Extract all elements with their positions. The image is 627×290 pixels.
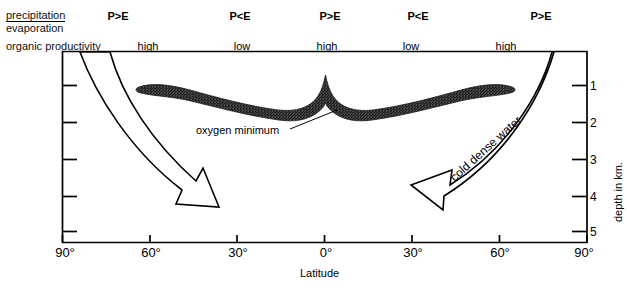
- latitude-tick-30s: 30°: [228, 245, 248, 260]
- productivity-value-60n: high: [496, 40, 517, 52]
- depth-tick-2: 2: [590, 116, 597, 130]
- pe-value-0: P>E: [319, 10, 340, 22]
- latitude-axis-title: Latitude: [300, 267, 339, 279]
- latitude-tick-90s: 90°: [55, 245, 75, 260]
- latitude-tick-60n: 60°: [490, 245, 510, 260]
- depth-tick-1: 1: [590, 79, 597, 93]
- precipitation-evaporation-ratio-label: precipitation: [6, 9, 65, 22]
- pe-value-60n: P>E: [530, 10, 551, 22]
- depth-tick-5: 5: [590, 225, 597, 239]
- latitude-tick-60s: 60°: [141, 245, 161, 260]
- northern-flow-arrow: [411, 52, 554, 210]
- right-axis-ticks: [572, 86, 586, 232]
- organic-productivity-label: organic productivity: [6, 40, 101, 52]
- oxygen-minimum-annotation: oxygen minimum: [196, 124, 279, 136]
- latitude-tick-90n: 90°: [574, 245, 594, 260]
- depth-tick-3: 3: [590, 153, 597, 167]
- pe-value-60s: P>E: [107, 10, 128, 22]
- latitude-tick-0: 0°: [320, 245, 332, 260]
- bottom-axis-ticks: [63, 235, 588, 242]
- depth-axis-title: depth in km.: [612, 162, 624, 222]
- productivity-value-60s: high: [138, 40, 159, 52]
- pe-value-30s: P<E: [229, 10, 250, 22]
- oxygen-minimum-zone: [136, 75, 515, 121]
- evaporation-label: evaporation: [6, 22, 64, 34]
- pe-value-30n: P<E: [407, 10, 428, 22]
- productivity-value-30s: low: [234, 40, 251, 52]
- depth-tick-4: 4: [590, 190, 597, 204]
- productivity-value-0: high: [317, 40, 338, 52]
- precipitation-label: precipitation: [6, 9, 65, 22]
- productivity-value-30n: low: [403, 40, 420, 52]
- left-axis-ticks: [63, 86, 77, 232]
- latitude-tick-30n: 30°: [403, 245, 423, 260]
- oxygen-minimum-diagram: precipitation evaporation organic produc…: [0, 0, 627, 290]
